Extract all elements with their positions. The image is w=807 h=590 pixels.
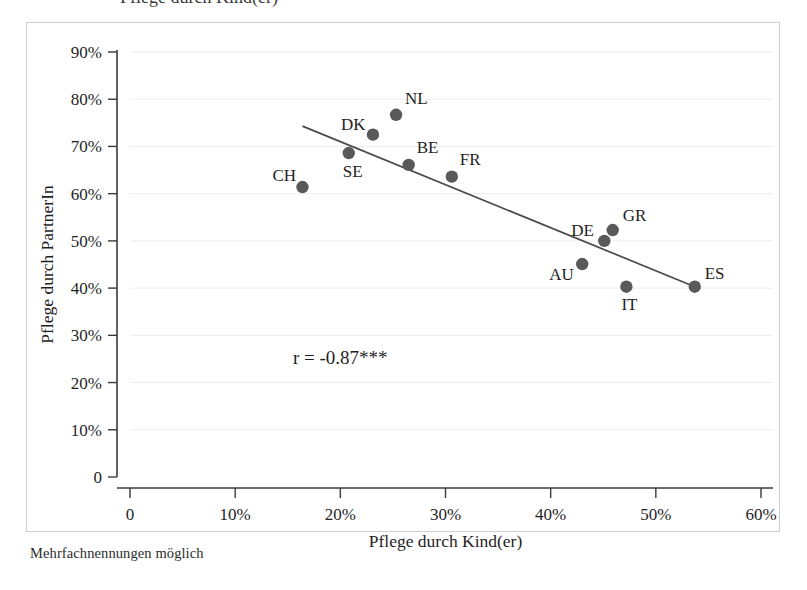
axis-ticks: 010%20%30%40%50%60%70%80%90%010%20%30%40… bbox=[71, 43, 777, 524]
data-point-es bbox=[689, 280, 701, 292]
scatter-chart: 010%20%30%40%50%60%70%80%90%010%20%30%40… bbox=[0, 0, 807, 590]
data-point-dk bbox=[367, 128, 379, 140]
x-tick-label-50: 50% bbox=[640, 505, 671, 524]
grid-lines bbox=[130, 52, 773, 430]
data-point-de bbox=[598, 235, 610, 247]
y-tick-label-90: 90% bbox=[71, 43, 102, 62]
correlation-annotation: r = -0.87*** bbox=[293, 347, 388, 368]
x-tick-label-10: 10% bbox=[220, 505, 251, 524]
y-tick-label-40: 40% bbox=[71, 279, 102, 298]
figure-container: Pflege durch Kind(er) 010%20%30%40%50%60… bbox=[0, 0, 807, 590]
y-tick-label-20: 20% bbox=[71, 374, 102, 393]
x-tick-label-0: 0 bbox=[126, 505, 135, 524]
x-tick-label-40: 40% bbox=[535, 505, 566, 524]
point-label-dk: DK bbox=[341, 115, 366, 134]
y-tick-label-0: 0 bbox=[94, 468, 103, 487]
y-tick-label-60: 60% bbox=[71, 185, 102, 204]
x-tick-label-60: 60% bbox=[745, 505, 776, 524]
data-point-it bbox=[620, 280, 632, 292]
footnote: Mehrfachnennungen möglich bbox=[30, 545, 204, 562]
x-tick-label-20: 20% bbox=[325, 505, 356, 524]
y-axis-title: Pflege durch PartnerIn bbox=[37, 185, 57, 344]
data-point-fr bbox=[446, 170, 458, 182]
point-label-be: BE bbox=[417, 138, 439, 157]
data-point-be bbox=[402, 159, 414, 171]
point-label-ch: CH bbox=[272, 166, 296, 185]
point-labels: CHSEDKNLBEFRAUDEGRITES bbox=[272, 89, 724, 314]
data-point-nl bbox=[390, 109, 402, 121]
point-label-au: AU bbox=[549, 265, 574, 284]
axis-titles: Pflege durch Kind(er)Pflege durch Partne… bbox=[37, 185, 522, 551]
point-label-gr: GR bbox=[623, 206, 647, 225]
point-label-fr: FR bbox=[460, 150, 481, 169]
point-label-de: DE bbox=[571, 221, 594, 240]
y-tick-label-70: 70% bbox=[71, 137, 102, 156]
y-tick-label-30: 30% bbox=[71, 326, 102, 345]
x-tick-label-30: 30% bbox=[430, 505, 461, 524]
point-label-se: SE bbox=[343, 162, 363, 181]
y-tick-label-10: 10% bbox=[71, 421, 102, 440]
point-label-it: IT bbox=[621, 295, 638, 314]
y-tick-label-50: 50% bbox=[71, 232, 102, 251]
axes bbox=[117, 50, 773, 488]
data-point-au bbox=[576, 258, 588, 270]
correlation-label: r = -0.87*** bbox=[293, 347, 388, 368]
x-axis-title: Pflege durch Kind(er) bbox=[369, 531, 523, 551]
data-point-gr bbox=[607, 224, 619, 236]
y-tick-label-80: 80% bbox=[71, 90, 102, 109]
data-point-ch bbox=[296, 181, 308, 193]
data-point-se bbox=[343, 147, 355, 159]
point-label-es: ES bbox=[705, 264, 725, 283]
point-label-nl: NL bbox=[405, 89, 428, 108]
